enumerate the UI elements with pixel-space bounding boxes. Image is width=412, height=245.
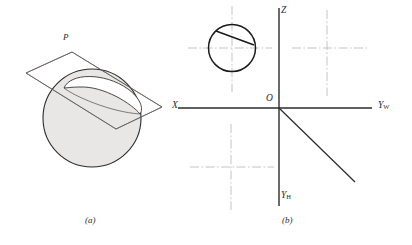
figure-canvas: [0, 0, 412, 245]
origin-label-o: O: [266, 94, 273, 104]
panel-b-graphics: [178, 6, 372, 210]
axis-label-yh-subscript: H: [286, 193, 291, 200]
caption-panel-b: (b): [282, 216, 293, 225]
cutting-plane-edge-chord: [216, 31, 254, 45]
axis-label-yh: YH: [281, 191, 291, 201]
axis-label-yw-subscript: W: [383, 103, 389, 110]
plane-label-p: P: [63, 33, 69, 42]
axis-label-z: Z: [281, 6, 286, 16]
figure-root: P Z X O YW YH (a) (b): [0, 0, 412, 245]
axis-label-x: X: [172, 101, 178, 111]
panel-a-graphics: [26, 52, 162, 167]
caption-panel-a: (a): [85, 216, 96, 225]
axis-label-yw: YW: [378, 101, 389, 111]
miter-line: [279, 108, 355, 182]
